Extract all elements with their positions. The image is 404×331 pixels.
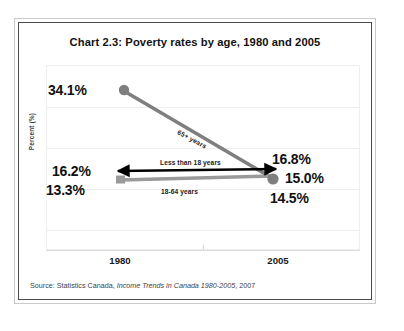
series-label-18-64: 18-64 years	[161, 188, 198, 195]
series-line-less18	[118, 169, 276, 171]
source-note: Source: Statistics Canada, Income Trends…	[30, 281, 255, 290]
series-label-less-than-18: Less than 18 years	[160, 159, 221, 166]
marker-18to64-1980	[116, 176, 125, 184]
data-label-14-5: 14.5%	[270, 190, 309, 206]
series-line-18to64	[121, 176, 272, 180]
chart-figure: Chart 2.3: Poverty rates by age, 1980 an…	[0, 0, 404, 331]
source-prefix: Source: Statistics Canada,	[30, 281, 117, 290]
data-label-16-8: 16.8%	[272, 151, 311, 167]
data-label-16-2: 16.2%	[52, 163, 91, 179]
source-suffix: , 2007	[235, 281, 255, 290]
data-label-15-0: 15.0%	[285, 170, 324, 186]
data-label-13-3: 13.3%	[46, 182, 85, 198]
marker-65plus-1980	[119, 85, 129, 95]
source-publication: Income Trends in Canada 1980-2005	[117, 281, 236, 290]
marker-65plus-2005	[267, 173, 278, 184]
data-label-34-1: 34.1%	[48, 82, 87, 98]
